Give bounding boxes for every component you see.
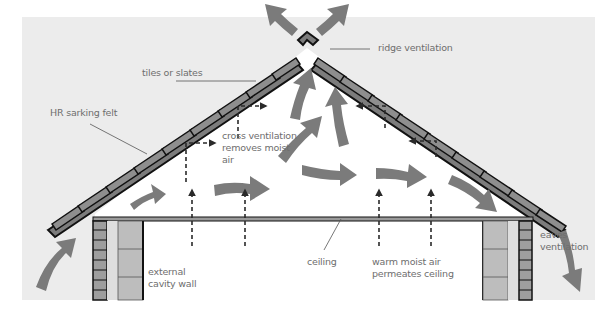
roof-ventilation-diagram: tiles or slates HR sarking felt ridge ve… bbox=[0, 0, 615, 318]
right-cavity-wall bbox=[483, 221, 532, 300]
label-warm-moist-air-2: permeates ceiling bbox=[372, 268, 454, 279]
label-external-wall-2: cavity wall bbox=[148, 278, 196, 289]
ceiling-joist bbox=[93, 217, 533, 221]
label-warm-moist-air-1: warm moist air bbox=[372, 256, 441, 267]
label-eaves-ventilation-1: eaves bbox=[540, 229, 567, 240]
label-cross-ventilation-2: removes moist bbox=[222, 142, 290, 153]
label-sarking-felt: HR sarking felt bbox=[50, 107, 118, 118]
label-cross-ventilation-3: air bbox=[222, 154, 234, 165]
left-cavity-wall bbox=[93, 221, 143, 300]
label-eaves-ventilation-2: ventilation bbox=[540, 241, 588, 252]
label-ceiling: ceiling bbox=[307, 256, 337, 267]
label-cross-ventilation-1: cross ventilation bbox=[222, 130, 297, 141]
label-ridge-ventilation: ridge ventilation bbox=[378, 42, 453, 53]
label-external-wall-1: external bbox=[148, 266, 186, 277]
label-tiles-or-slates: tiles or slates bbox=[142, 67, 203, 78]
